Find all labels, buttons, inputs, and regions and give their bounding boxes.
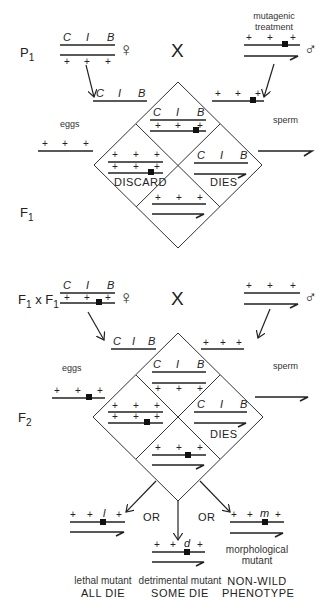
cross-x: x	[35, 292, 42, 307]
male-symbol: ♂	[304, 289, 317, 306]
detrimental-caption: detrimental mutant SOME DIE	[130, 576, 230, 599]
gene: C	[63, 32, 71, 43]
gene: C	[63, 280, 71, 291]
gene: +	[112, 401, 118, 411]
gene: B	[148, 336, 155, 347]
gene: +	[176, 193, 182, 203]
gene: +	[155, 193, 161, 203]
gene: +	[231, 510, 237, 520]
gene: m	[260, 508, 269, 519]
gene: +	[203, 338, 209, 348]
gen-sub: 1	[28, 212, 34, 223]
gene: +	[247, 510, 253, 520]
gene: +	[84, 57, 90, 67]
caption-line: detrimental mutant	[130, 576, 230, 586]
gene: +	[133, 150, 139, 160]
gene: l	[103, 508, 105, 519]
caption-line: NON-WILD	[222, 576, 292, 587]
gene: +	[176, 443, 182, 453]
gen-letter: F	[18, 292, 26, 307]
gene: +	[154, 540, 160, 550]
gene: +	[133, 412, 139, 422]
gene: B	[107, 280, 114, 291]
gene: C	[197, 399, 205, 410]
cross-symbol: X	[171, 289, 184, 308]
gene: +	[133, 162, 139, 172]
gene: I	[86, 32, 89, 43]
gene: I	[176, 107, 179, 118]
gene: B	[240, 399, 247, 410]
gen-letter: P	[20, 45, 29, 60]
gene: +	[215, 89, 221, 99]
gene: B	[240, 150, 247, 161]
gene: +	[290, 33, 296, 43]
gene: +	[84, 293, 90, 303]
mutagenic-treatment-note: mutagenic treatment	[246, 12, 302, 32]
male-symbol: ♂	[304, 41, 317, 58]
gene: C	[153, 359, 161, 370]
gene: C	[197, 150, 205, 161]
gene: +	[154, 162, 160, 172]
gene: +	[176, 384, 182, 394]
gen-sub: 1	[26, 299, 32, 310]
gene: +	[155, 443, 161, 453]
discard-label: DISCARD	[114, 177, 167, 188]
gene: I	[86, 280, 89, 291]
gene: +	[64, 57, 70, 67]
gene: +	[87, 510, 93, 520]
cross-symbol: X	[171, 41, 184, 60]
gene: I	[118, 88, 121, 99]
gene: +	[220, 338, 226, 348]
gene: +	[112, 150, 118, 160]
eggs-label: eggs	[60, 120, 80, 129]
gene: +	[154, 412, 160, 422]
sperm-label: sperm	[273, 362, 298, 371]
gene: +	[54, 386, 60, 396]
note-line: mutant	[225, 556, 289, 566]
gene: +	[235, 89, 241, 99]
generation-label-f1: F1	[20, 206, 34, 223]
gene: I	[220, 150, 223, 161]
morphological-note: morphological mutant	[225, 545, 289, 566]
gen-sub: 1	[53, 299, 59, 310]
gene: I	[220, 399, 223, 410]
gene: +	[154, 401, 160, 411]
gene: +	[105, 57, 111, 67]
gene: +	[70, 510, 76, 520]
gene: I	[132, 336, 135, 347]
dies-label: DIES	[210, 177, 238, 188]
note-line: mutagenic	[246, 12, 302, 21]
gene: +	[133, 401, 139, 411]
morphological-caption: NON-WILD PHENOTYPE	[222, 576, 292, 599]
generation-label-p1: P1	[20, 46, 34, 63]
gene: +	[75, 386, 81, 396]
gene: B	[197, 107, 204, 118]
eggs-label: eggs	[62, 364, 82, 373]
note-line: morphological	[225, 545, 289, 555]
gene: +	[197, 193, 203, 203]
gene: d	[184, 538, 190, 549]
or-label: OR	[143, 512, 161, 523]
gene: +	[290, 281, 296, 291]
gene: +	[154, 150, 160, 160]
gene: +	[83, 139, 89, 149]
gene: +	[155, 121, 161, 131]
gene: +	[197, 384, 203, 394]
gene: +	[255, 89, 261, 99]
gene: +	[170, 540, 176, 550]
female-symbol: ♀	[119, 288, 133, 307]
gene: +	[197, 443, 203, 453]
gene: B	[107, 32, 114, 43]
or-label: OR	[198, 512, 216, 523]
gene: C	[96, 88, 104, 99]
note-line: treatment	[246, 23, 302, 32]
gene: +	[246, 33, 252, 43]
caption-line: PHENOTYPE	[222, 588, 292, 599]
gene: +	[267, 281, 273, 291]
gene: +	[105, 293, 111, 303]
gene: +	[175, 121, 181, 131]
gene: I	[176, 359, 179, 370]
gene: +	[112, 162, 118, 172]
gene: +	[42, 139, 48, 149]
gene: B	[138, 88, 145, 99]
